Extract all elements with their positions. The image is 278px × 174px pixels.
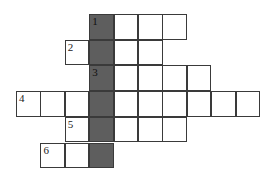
letter-cell[interactable]: 2 bbox=[65, 40, 90, 66]
letter-cell[interactable] bbox=[138, 14, 163, 40]
keyword-cell[interactable] bbox=[89, 40, 114, 66]
letter-cell[interactable] bbox=[211, 91, 236, 117]
letter-cell[interactable] bbox=[138, 117, 163, 143]
letter-cell[interactable] bbox=[65, 91, 90, 117]
crossword-grid: 123456 bbox=[0, 0, 278, 174]
letter-cell[interactable] bbox=[114, 65, 139, 91]
clue-number: 6 bbox=[43, 145, 49, 156]
clue-number: 2 bbox=[68, 42, 74, 53]
letter-cell[interactable] bbox=[138, 65, 163, 91]
letter-cell[interactable] bbox=[40, 91, 65, 117]
letter-cell[interactable] bbox=[187, 91, 212, 117]
letter-cell[interactable]: 4 bbox=[16, 91, 41, 117]
letter-cell[interactable] bbox=[187, 65, 212, 91]
letter-cell[interactable] bbox=[114, 14, 139, 40]
letter-cell[interactable]: 5 bbox=[65, 117, 90, 143]
letter-cell[interactable] bbox=[114, 40, 139, 66]
clue-number: 5 bbox=[68, 119, 74, 130]
letter-cell[interactable] bbox=[162, 91, 187, 117]
letter-cell[interactable] bbox=[236, 91, 261, 117]
letter-cell[interactable] bbox=[138, 91, 163, 117]
letter-cell[interactable]: 6 bbox=[40, 143, 65, 169]
letter-cell[interactable] bbox=[162, 65, 187, 91]
clue-number: 3 bbox=[92, 67, 98, 78]
keyword-cell[interactable] bbox=[89, 117, 114, 143]
letter-cell[interactable] bbox=[114, 91, 139, 117]
keyword-cell[interactable] bbox=[89, 91, 114, 117]
clue-number: 1 bbox=[92, 16, 98, 27]
letter-cell[interactable] bbox=[114, 117, 139, 143]
keyword-cell[interactable]: 3 bbox=[89, 65, 114, 91]
letter-cell[interactable] bbox=[138, 40, 163, 66]
letter-cell[interactable] bbox=[162, 117, 187, 143]
letter-cell[interactable] bbox=[162, 14, 187, 40]
keyword-cell[interactable] bbox=[89, 143, 114, 169]
keyword-cell[interactable]: 1 bbox=[89, 14, 114, 40]
clue-number: 4 bbox=[19, 93, 25, 104]
letter-cell[interactable] bbox=[65, 143, 90, 169]
